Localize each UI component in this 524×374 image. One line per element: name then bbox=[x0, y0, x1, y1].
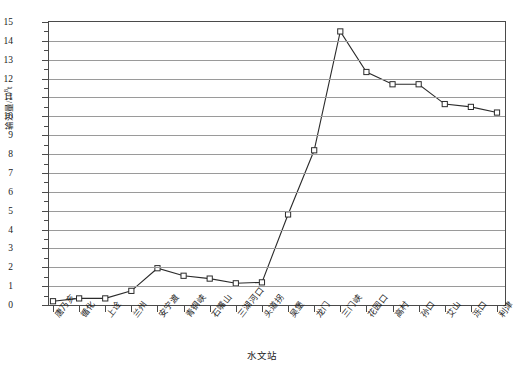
data-point-marker bbox=[442, 101, 447, 106]
y-axis-tick-mark bbox=[42, 154, 48, 155]
y-axis-tick-label: 4 bbox=[0, 225, 13, 235]
y-axis-minor-tick bbox=[44, 31, 48, 32]
gridline bbox=[49, 79, 505, 80]
y-axis-tick-label: 5 bbox=[0, 206, 13, 216]
y-axis-minor-tick bbox=[44, 258, 48, 259]
data-point-marker bbox=[312, 148, 317, 153]
y-axis-tick-label: 12 bbox=[0, 74, 13, 84]
gridline bbox=[49, 211, 505, 212]
y-axis-tick-mark bbox=[42, 286, 48, 287]
data-point-marker bbox=[207, 276, 212, 281]
y-axis-tick-mark bbox=[42, 267, 48, 268]
y-axis-minor-tick bbox=[44, 145, 48, 146]
y-axis-tick-mark bbox=[42, 211, 48, 212]
gridline bbox=[49, 60, 505, 61]
data-point-marker bbox=[468, 104, 473, 109]
series-polyline bbox=[53, 31, 497, 301]
y-axis-tick-label: 8 bbox=[0, 149, 13, 159]
data-point-marker bbox=[259, 280, 264, 285]
data-point-marker bbox=[338, 29, 343, 34]
data-point-marker bbox=[77, 296, 82, 301]
y-axis-tick-label: 15 bbox=[0, 17, 13, 27]
y-axis-tick-mark bbox=[42, 116, 48, 117]
y-axis-tick-mark bbox=[42, 173, 48, 174]
data-point-marker bbox=[285, 212, 290, 217]
data-point-marker bbox=[390, 82, 395, 87]
y-axis-tick-mark bbox=[42, 248, 48, 249]
chart-figure: 输沙量/108t 0123456789101112131415唐乃亥循化上诠兰州… bbox=[0, 0, 524, 374]
gridline bbox=[49, 97, 505, 98]
y-axis-minor-tick bbox=[44, 201, 48, 202]
y-axis-minor-tick bbox=[44, 69, 48, 70]
y-axis-tick-mark bbox=[42, 79, 48, 80]
data-point-marker bbox=[233, 281, 238, 286]
y-axis-minor-tick bbox=[44, 88, 48, 89]
y-axis-tick-mark bbox=[42, 192, 48, 193]
y-axis-tick-mark bbox=[42, 305, 48, 306]
gridline bbox=[49, 41, 505, 42]
y-axis-tick-label: 14 bbox=[0, 36, 13, 46]
gridline bbox=[49, 116, 505, 117]
y-axis-minor-tick bbox=[44, 239, 48, 240]
y-axis-minor-tick bbox=[44, 164, 48, 165]
y-axis-tick-label: 9 bbox=[0, 130, 13, 140]
y-axis-tick-mark bbox=[42, 22, 48, 23]
plot-area bbox=[48, 21, 506, 306]
data-point-marker bbox=[416, 82, 421, 87]
y-axis-minor-tick bbox=[44, 220, 48, 221]
y-axis-tick-mark bbox=[42, 135, 48, 136]
y-axis-tick-mark bbox=[42, 41, 48, 42]
gridline bbox=[49, 286, 505, 287]
gridline bbox=[49, 230, 505, 231]
y-axis-tick-mark bbox=[42, 60, 48, 61]
y-axis-minor-tick bbox=[44, 277, 48, 278]
data-point-marker bbox=[103, 296, 108, 301]
y-axis-title-unit: t bbox=[4, 87, 14, 89]
data-point-marker bbox=[50, 299, 55, 304]
y-axis-minor-tick bbox=[44, 107, 48, 108]
gridline bbox=[49, 192, 505, 193]
data-point-marker bbox=[364, 69, 369, 74]
data-point-marker bbox=[129, 288, 134, 293]
data-point-marker bbox=[181, 273, 186, 278]
gridline bbox=[49, 154, 505, 155]
y-axis-tick-label: 0 bbox=[0, 300, 13, 310]
y-axis-tick-mark bbox=[42, 230, 48, 231]
data-series-line bbox=[49, 22, 505, 305]
data-point-marker bbox=[494, 110, 499, 115]
gridline bbox=[49, 135, 505, 136]
gridline bbox=[49, 173, 505, 174]
y-axis-tick-label: 7 bbox=[0, 168, 13, 178]
y-axis-minor-tick bbox=[44, 50, 48, 51]
y-axis-tick-label: 11 bbox=[0, 92, 13, 102]
y-axis-tick-label: 3 bbox=[0, 243, 13, 253]
gridline bbox=[49, 248, 505, 249]
gridline bbox=[49, 267, 505, 268]
y-axis-tick-label: 2 bbox=[0, 262, 13, 272]
y-axis-minor-tick bbox=[44, 126, 48, 127]
y-axis-tick-mark bbox=[42, 97, 48, 98]
y-axis-minor-tick bbox=[44, 182, 48, 183]
y-axis-minor-tick bbox=[44, 296, 48, 297]
y-axis-tick-label: 1 bbox=[0, 281, 13, 291]
y-axis-tick-label: 6 bbox=[0, 187, 13, 197]
y-axis-tick-label: 13 bbox=[0, 55, 13, 65]
x-axis-title: 水文站 bbox=[0, 348, 524, 362]
y-axis-tick-label: 10 bbox=[0, 111, 13, 121]
